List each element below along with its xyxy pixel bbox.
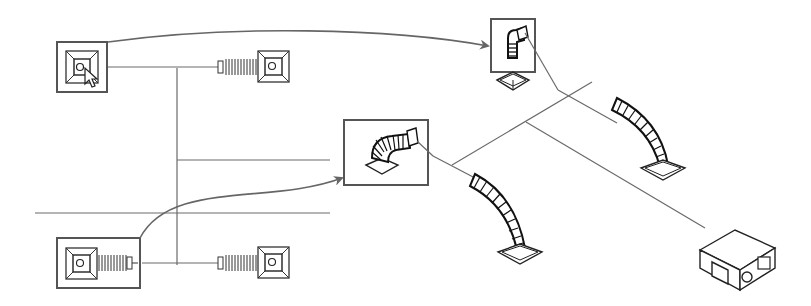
- isometric-flex-duct-lower: [470, 174, 542, 264]
- hvac-diagram: [0, 0, 811, 306]
- bottom-left-diffuser-callout[interactable]: [57, 238, 140, 288]
- isometric-flex-duct-right: [612, 98, 685, 180]
- air-handling-unit: [700, 230, 775, 290]
- duct-to-lower-flex: [433, 156, 475, 178]
- duct-to-ahu: [526, 122, 705, 228]
- mapping-arrow-top: [108, 31, 488, 46]
- top-left-diffuser-callout[interactable]: [57, 42, 107, 92]
- duct-to-right-flex: [558, 90, 617, 123]
- isometric-flex-duct-middle[interactable]: [344, 120, 433, 185]
- isometric-flex-duct-top[interactable]: [491, 19, 558, 90]
- plan-view: [35, 42, 330, 288]
- bottom-right-diffuser[interactable]: [218, 247, 289, 278]
- mapping-arrow-bottom: [140, 178, 342, 238]
- top-right-diffuser[interactable]: [218, 51, 289, 82]
- isometric-view: [344, 19, 775, 290]
- duct-diagonal-main: [452, 82, 592, 165]
